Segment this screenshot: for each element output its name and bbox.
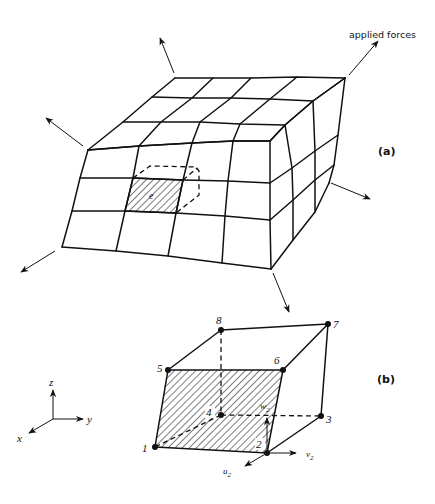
node-3 <box>318 413 324 419</box>
node-1 <box>152 444 158 450</box>
x-axis-label: x <box>16 432 22 444</box>
deformed-mesh <box>62 77 345 269</box>
node-label-8: 8 <box>216 314 222 326</box>
force-arrows <box>21 38 378 312</box>
node-label-5: 5 <box>157 362 163 374</box>
node-4 <box>218 412 224 418</box>
force-arrow-right <box>331 183 370 199</box>
coordinate-axes: z y x <box>16 376 92 444</box>
fem-diagram: applied forces (a) e 1 2 3 4 5 6 7 8 <box>0 0 435 504</box>
top-face <box>88 77 345 150</box>
node-6 <box>280 367 286 373</box>
applied-forces-label: applied forces <box>349 29 416 40</box>
node-label-6: 6 <box>274 354 280 366</box>
x-axis-arrow <box>29 419 53 433</box>
force-arrow-bottom-left <box>21 251 55 272</box>
node-label-1: 1 <box>142 442 148 454</box>
force-arrow-left <box>46 118 83 146</box>
hex-element: 1 2 3 4 5 6 7 8 w2 v2 u2 <box>142 314 339 479</box>
z-axis-label: z <box>48 376 54 388</box>
node-5 <box>165 367 171 373</box>
right-face <box>270 78 345 269</box>
node-7 <box>325 321 331 327</box>
node-8 <box>218 327 224 333</box>
node-label-3: 3 <box>325 413 332 425</box>
y-axis-label: y <box>86 413 92 425</box>
force-arrow-bottom <box>273 273 289 312</box>
element-e-face <box>125 178 183 213</box>
u2-label: u2 <box>223 466 232 479</box>
panel-a-label: (a) <box>378 145 395 158</box>
v2-label: v2 <box>306 449 314 462</box>
element-e-label: e <box>149 190 154 201</box>
force-arrow-top-right <box>349 41 378 75</box>
node-label-2: 2 <box>256 438 262 450</box>
node-label-4: 4 <box>206 406 212 418</box>
node-label-7: 7 <box>333 318 339 330</box>
force-arrow-top-left <box>160 38 174 73</box>
u2-arrow <box>245 453 267 466</box>
panel-b-label: (b) <box>377 373 395 386</box>
